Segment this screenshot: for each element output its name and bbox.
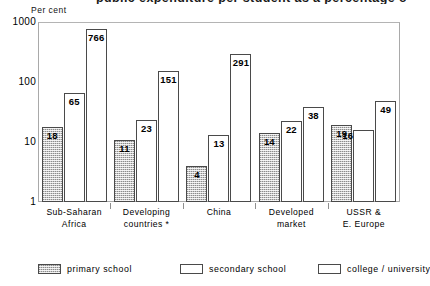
x-category-label: Developedmarket <box>255 207 327 230</box>
legend-item[interactable]: secondary school <box>180 262 286 276</box>
bar-value-label: 291 <box>231 57 250 68</box>
y-axis-unit-label: Per cent <box>31 5 67 15</box>
bar-group: 191649 <box>328 22 400 202</box>
x-category-label-line1: Developing <box>110 207 182 219</box>
x-category-label: Developingcountries * <box>110 207 182 230</box>
bar-college-university[interactable]: 291 <box>230 54 251 202</box>
bar-secondary-school[interactable]: 65 <box>64 93 85 202</box>
y-tick-label-1000: 1000 <box>13 16 36 27</box>
chart-legend: primary schoolsecondary schoolcollege / … <box>30 262 402 280</box>
bar-primary-school[interactable]: 4 <box>186 166 207 202</box>
x-category-label: Sub-SaharanAfrica <box>38 207 110 230</box>
legend-item[interactable]: college / university <box>318 262 430 276</box>
bars-layer: 18657661123151413291142238191649 <box>38 22 400 202</box>
legend-label: primary school <box>67 264 132 274</box>
bar-secondary-school[interactable]: 22 <box>281 121 302 202</box>
bar-primary-school[interactable]: 14 <box>259 133 280 202</box>
bar-value-label: 151 <box>159 74 178 85</box>
bar-group: 413291 <box>183 22 255 202</box>
bar-value-label: 38 <box>304 110 323 121</box>
bar-value-label: 14 <box>260 136 279 147</box>
legend-item[interactable]: primary school <box>38 262 132 276</box>
x-category-label-line2: market <box>255 219 327 231</box>
x-category-label-line2: countries * <box>110 219 182 231</box>
x-category-label-line1: Developed <box>255 207 327 219</box>
bar-group: 142238 <box>255 22 327 202</box>
bar-value-label: 11 <box>115 143 134 154</box>
bar-value-label: 13 <box>209 138 228 149</box>
bar-college-university[interactable]: 151 <box>158 71 179 202</box>
bar-value-label: 23 <box>137 123 156 134</box>
bar-secondary-school[interactable]: 16 <box>353 130 374 202</box>
legend-label: secondary school <box>209 264 286 274</box>
y-tick-label-100: 100 <box>18 76 36 87</box>
bar-college-university[interactable]: 49 <box>375 101 396 202</box>
legend-swatch <box>318 264 341 274</box>
chart-title: public expenditure per student as a perc… <box>96 0 406 4</box>
bar-college-university[interactable]: 766 <box>86 29 107 202</box>
legend-swatch <box>38 264 61 274</box>
x-category-label-line1: China <box>183 207 255 219</box>
x-category-label-line2: Africa <box>38 219 110 231</box>
x-category-label-line1: Sub-Saharan <box>38 207 110 219</box>
bar-secondary-school[interactable]: 13 <box>208 135 229 202</box>
bar-group: 1123151 <box>110 22 182 202</box>
x-category-label: China <box>183 207 255 219</box>
legend-label: college / university <box>347 264 430 274</box>
bar-secondary-school[interactable]: 23 <box>136 120 157 202</box>
x-category-label: USSR &E. Europe <box>328 207 400 230</box>
y-tick-label-1: 1 <box>30 196 36 207</box>
bar-value-label: 65 <box>65 96 84 107</box>
bar-primary-school[interactable]: 11 <box>114 140 135 202</box>
bar-value-label: 22 <box>282 124 301 135</box>
bar-value-label: 18 <box>43 130 62 141</box>
bar-value-label: 49 <box>376 104 395 115</box>
x-category-label-line2: E. Europe <box>328 219 400 231</box>
y-tick-label-10: 10 <box>24 136 36 147</box>
bar-value-label: 4 <box>187 169 206 180</box>
legend-swatch <box>180 264 203 274</box>
bar-value-label: 766 <box>87 32 106 43</box>
bar-college-university[interactable]: 38 <box>303 107 324 202</box>
bar-primary-school[interactable]: 18 <box>42 127 63 202</box>
bar-group: 1865766 <box>38 22 110 202</box>
bar-value-label: 16 <box>331 130 353 141</box>
x-category-label-line1: USSR & <box>328 207 400 219</box>
